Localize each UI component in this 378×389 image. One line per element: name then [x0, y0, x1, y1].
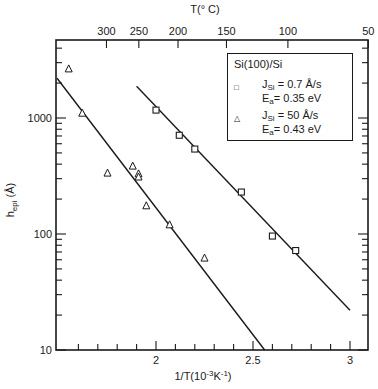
triangle-marker-icon: △ — [234, 112, 240, 125]
triangle-marker-icon — [65, 65, 72, 72]
square-marker-icon — [269, 233, 275, 239]
top-tick-label: 250 — [130, 25, 148, 37]
triangle-marker-icon — [104, 169, 111, 176]
x-tick-label: 2 — [153, 354, 159, 366]
square-marker-icon — [192, 146, 198, 152]
x-axis-title: 1/T(10-3K-1) — [174, 369, 231, 382]
x-tick-label: 3 — [347, 354, 353, 366]
top-tick-label: 150 — [217, 25, 235, 37]
square-marker-icon — [293, 248, 299, 254]
triangle-marker-icon — [201, 254, 208, 261]
square-marker-icon: □ — [234, 81, 239, 94]
triangle-marker-icon — [79, 109, 86, 116]
legend-energy-label: Ea= 0.43 eV — [262, 123, 321, 139]
triangle-marker-icon — [129, 162, 136, 169]
top-tick-label: 50 — [362, 25, 374, 37]
top-tick-label: 100 — [279, 25, 297, 37]
triangle-marker-icon — [143, 202, 150, 209]
y-tick-label: 100 — [34, 228, 52, 240]
legend-energy-label: Ea= 0.35 eV — [262, 92, 321, 108]
top-tick-label: 300 — [97, 25, 115, 37]
square-marker-icon — [238, 189, 244, 195]
legend: Si(100)/Si □ JSi = 0.7 Å/s Ea= 0.35 eV △… — [227, 53, 353, 141]
y-tick-label: 10 — [40, 344, 52, 356]
y-tick-label: 1000 — [28, 112, 52, 124]
legend-title: Si(100)/Si — [234, 58, 282, 71]
top-tick-label: 200 — [169, 25, 187, 37]
x-tick-label: 2.5 — [245, 354, 260, 366]
top-axis-title: T(° C) — [190, 3, 219, 15]
y-axis-title: hepi (Å) — [4, 183, 19, 218]
square-marker-icon — [176, 132, 182, 138]
square-marker-icon — [153, 107, 159, 113]
